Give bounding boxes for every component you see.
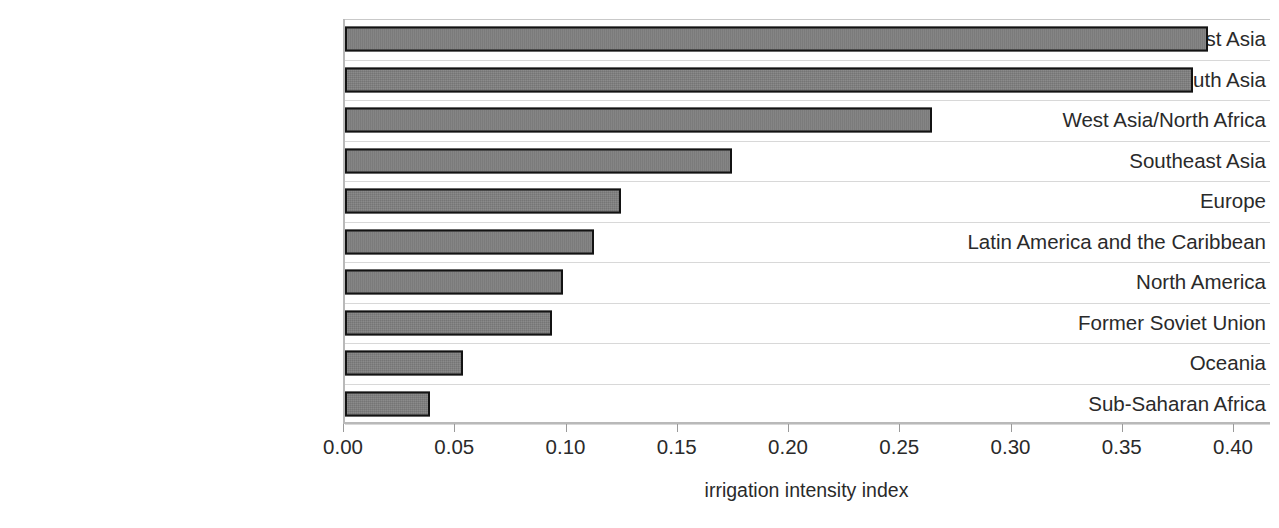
bar [345, 67, 1193, 92]
bar-row [345, 60, 1270, 101]
bar [345, 229, 594, 254]
bar [345, 351, 463, 376]
x-axis-tick [454, 424, 455, 432]
bar-row [345, 100, 1270, 141]
x-axis-tick-label: 0.40 [1188, 437, 1278, 458]
x-axis-tick [1233, 424, 1234, 432]
bar-row [345, 222, 1270, 263]
bar [345, 148, 732, 173]
x-axis-tick-label: 0.00 [298, 437, 388, 458]
bar-row [345, 303, 1270, 344]
x-axis-tick [677, 424, 678, 432]
bar-row [345, 343, 1270, 384]
x-axis-tick-label: 0.10 [521, 437, 611, 458]
bar [345, 189, 621, 214]
x-axis-tick [566, 424, 567, 432]
x-axis-tick-label: 0.35 [1077, 437, 1167, 458]
x-axis-tick-label: 0.15 [632, 437, 722, 458]
bar [345, 391, 430, 416]
x-axis-tick-label: 0.20 [743, 437, 833, 458]
bar [345, 27, 1208, 52]
irrigation-intensity-bar-chart: East AsiaSouth AsiaWest Asia/North Afric… [0, 0, 1279, 528]
x-axis-tick [788, 424, 789, 432]
bar-row [345, 384, 1270, 425]
x-axis-tick [343, 424, 344, 432]
bar-row [345, 181, 1270, 222]
bar [345, 108, 932, 133]
x-axis-tick [1122, 424, 1123, 432]
bar-row [345, 19, 1270, 60]
x-axis-tick-label: 0.30 [966, 437, 1056, 458]
x-axis-tick [1011, 424, 1012, 432]
plot-area [343, 19, 1270, 424]
bar-row [345, 141, 1270, 182]
x-axis-tick [899, 424, 900, 432]
gridline [345, 424, 1270, 425]
bar [345, 270, 563, 295]
bar-row [345, 262, 1270, 303]
bar [345, 310, 552, 335]
x-axis-tick-label: 0.25 [854, 437, 944, 458]
x-axis-tick-label: 0.05 [409, 437, 499, 458]
x-axis-title: irrigation intensity index [343, 481, 1270, 501]
